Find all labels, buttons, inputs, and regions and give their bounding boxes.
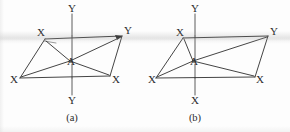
- structure-drawing-a: Y Y X Y X X A (a): [0, 0, 145, 132]
- label-lower-left-b: X: [148, 73, 156, 85]
- label-center-atom-b: A: [190, 55, 198, 67]
- label-upper-left-a: X: [37, 26, 45, 38]
- label-upper-left-b: X: [176, 26, 184, 38]
- figure-root: Y Y X Y X X A (a): [0, 0, 290, 132]
- label-lower-right-b: X: [256, 73, 264, 85]
- label-lower-right-a: X: [112, 73, 120, 85]
- bond-lowerright-lowerleft-b: [156, 77, 255, 78]
- bond-center-lowerright-a: [70, 61, 109, 75]
- bond-upperright-lowerright-b: [255, 36, 268, 77]
- bond-center-lowerleft-a: [21, 61, 70, 77]
- label-upper-right-b: Y: [270, 25, 278, 37]
- bond-upperleft-upperright-b: [183, 36, 268, 38]
- label-upper-right-a: Y: [124, 24, 132, 36]
- caption-panel-a: (a): [66, 112, 78, 124]
- bond-lowerleft-upperleft-a: [20, 39, 45, 78]
- bond-lowerleft-upperleft-b: [156, 38, 183, 78]
- label-axial-top-b: Y: [191, 2, 199, 14]
- label-center-atom-a: A: [67, 55, 75, 67]
- caption-panel-b: (b): [189, 112, 202, 124]
- bond-lowerright-lowerleft-a: [20, 76, 110, 78]
- label-axial-bottom-a: Y: [68, 94, 76, 106]
- bond-upperleft-upperright-a: [45, 36, 122, 39]
- label-axial-bottom-b: X: [191, 94, 199, 106]
- bond-center-upperright-b: [193, 37, 267, 61]
- bond-center-upperright-a: [70, 37, 121, 61]
- diagram-panel-b: Y X X Y X X A (b): [145, 0, 290, 132]
- bond-upperright-lowerright-a: [110, 36, 122, 76]
- label-axial-top-a: Y: [68, 2, 76, 14]
- bond-hint-upperleft-a: [44, 41, 56, 43]
- label-lower-left-a: X: [10, 73, 18, 85]
- bond-center-lowerright-b: [193, 61, 254, 76]
- diagram-panel-a: Y Y X Y X X A (a): [0, 0, 145, 132]
- structure-drawing-b: Y X X Y X X A (b): [145, 0, 290, 132]
